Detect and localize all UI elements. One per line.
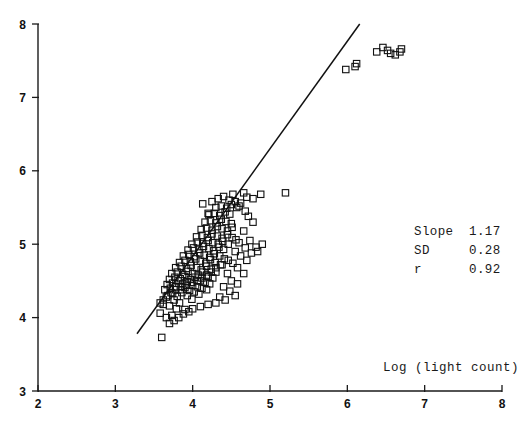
data-point [234, 264, 240, 270]
data-point-markers [157, 44, 405, 340]
data-point [182, 306, 188, 312]
plot-canvas: 345678 2345678 Log (light count) Slope 1… [0, 0, 527, 432]
data-point [200, 201, 206, 207]
slope-label: Slope [414, 225, 454, 239]
data-point [258, 191, 264, 197]
slope-value: 1.17 [469, 225, 501, 239]
y-tick-label-8: 8 [19, 18, 26, 32]
x-tick-label-8: 8 [499, 397, 506, 411]
y-tick-label-4: 4 [19, 311, 26, 325]
data-point [228, 278, 234, 284]
data-point [241, 270, 247, 276]
data-point [259, 241, 265, 247]
data-point [247, 237, 253, 243]
y-tick-label-7: 7 [19, 91, 26, 105]
data-point [159, 334, 165, 340]
data-point [254, 248, 260, 254]
data-point [157, 310, 163, 316]
sd-value: 0.28 [469, 244, 501, 258]
y-tick-label-6: 6 [19, 164, 26, 178]
data-point [343, 66, 349, 72]
x-tick-label-2: 2 [35, 397, 42, 411]
x-tick-label-7: 7 [421, 397, 428, 411]
x-tick-label-5: 5 [267, 397, 274, 411]
r-label: r [414, 263, 422, 277]
data-point [197, 303, 203, 309]
x-tick-label-3: 3 [112, 397, 119, 411]
r-value: 0.92 [469, 263, 501, 277]
axes [38, 24, 502, 391]
y-tick-label-5: 5 [19, 238, 26, 252]
sd-label: SD [414, 244, 430, 258]
regression-fit-line [137, 24, 360, 334]
x-axis-title: Log (light count) [383, 361, 519, 375]
data-point [234, 281, 240, 287]
data-point [224, 270, 230, 276]
data-point [205, 301, 211, 307]
data-point [241, 228, 247, 234]
data-point [282, 190, 288, 196]
data-point [220, 284, 226, 290]
scatter-plot-figure: 345678 2345678 Log (light count) Slope 1… [0, 0, 527, 432]
y-tick-label-3: 3 [19, 385, 26, 399]
x-axis-ticks: 2345678 [35, 385, 506, 411]
data-point [250, 195, 256, 201]
x-tick-label-6: 6 [344, 397, 351, 411]
data-point [244, 257, 250, 263]
data-point [374, 49, 380, 55]
y-axis-ticks: 345678 [19, 18, 39, 399]
x-tick-label-4: 4 [189, 397, 196, 411]
data-point [242, 245, 248, 251]
statistics-annotation: Slope 1.17 SD 0.28 r 0.92 [414, 225, 501, 277]
